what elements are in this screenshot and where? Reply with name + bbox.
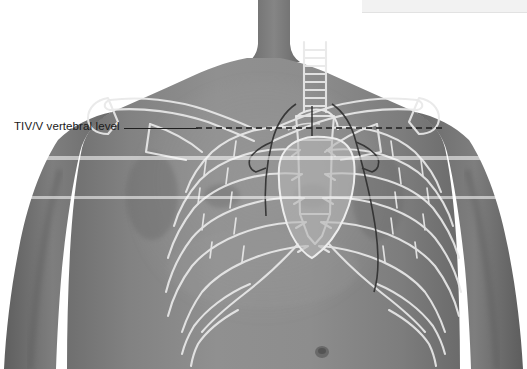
top-banner	[362, 0, 527, 13]
organ-layer	[0, 0, 527, 369]
vertebral-level-plane-line	[196, 127, 442, 129]
screenshot-root: TIV/V vertebral level	[0, 0, 527, 369]
vertebral-level-label: TIV/V vertebral level	[14, 120, 120, 133]
leader-line	[124, 128, 198, 129]
anatomical-figure: TIV/V vertebral level	[0, 0, 527, 369]
heart-silhouette	[279, 109, 355, 258]
